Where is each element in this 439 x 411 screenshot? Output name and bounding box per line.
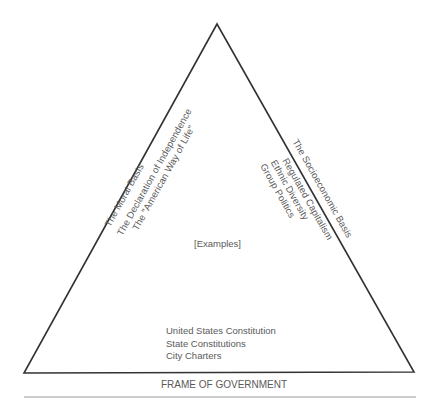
base-example-1: United States Constitution (166, 325, 276, 338)
base-examples: United States Constitution State Constit… (166, 325, 276, 363)
base-example-3: City Charters (166, 350, 276, 363)
base-example-2: State Constitutions (166, 338, 276, 351)
triangle-outline (24, 24, 414, 373)
base-heading: FRAME OF GOVERNMENT (161, 379, 287, 392)
center-label: [Examples] (194, 238, 241, 251)
